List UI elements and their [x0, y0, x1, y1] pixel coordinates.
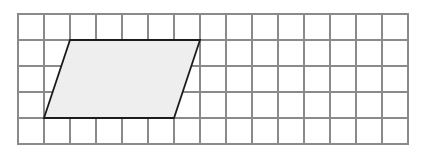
- geometry-figure-svg: [0, 0, 424, 155]
- figure-container: [0, 0, 424, 155]
- shapes-layer: [44, 40, 200, 118]
- parallelogram: [44, 40, 200, 118]
